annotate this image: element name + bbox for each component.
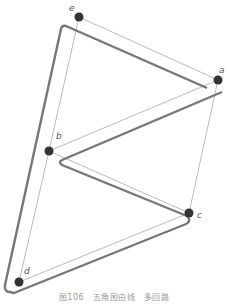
point-e [75, 13, 84, 22]
label-a: a [219, 65, 225, 75]
label-c: c [197, 210, 202, 220]
point-d [15, 278, 24, 287]
point-c [185, 209, 194, 218]
point-b [45, 147, 54, 156]
figure-caption: 图106 五角图由线 多回路 [0, 291, 228, 302]
outline-path [5, 26, 222, 293]
points [15, 13, 223, 287]
label-b: b [56, 131, 62, 141]
point-a [214, 76, 223, 85]
label-e: e [69, 3, 75, 13]
label-d: d [24, 266, 30, 276]
diagram-canvas [0, 0, 228, 306]
